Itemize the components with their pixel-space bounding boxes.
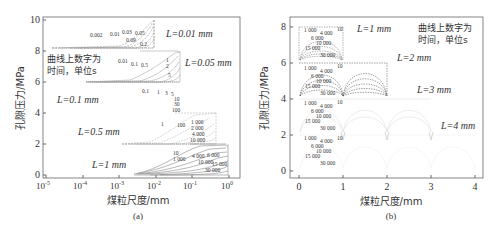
svg-text:0.03: 0.03 (122, 29, 132, 35)
cusps-b (341, 132, 433, 140)
labels-L01: 0.1 1 3 5 10 30 100 (142, 88, 181, 113)
label-L005: L=0.05 mm (184, 57, 232, 68)
labels-b-L3: 1 000 4 000 6 000 10 000 15 000 30 000 1… (304, 99, 343, 131)
xtick-b-1: 1 (341, 181, 346, 192)
figure: 0 2 4 6 8 10 10-5 10-4 10-3 10-2 10-1 10… (0, 0, 499, 237)
svg-text:100: 100 (177, 122, 186, 128)
svg-text:0.1: 0.1 (142, 88, 149, 94)
svg-text:0.002: 0.002 (90, 32, 103, 38)
ytick-b-2: 2 (281, 129, 286, 140)
label-L05: L=0.5 mm (77, 126, 120, 137)
caption-b: (b) (386, 211, 397, 221)
labels-L005: 0.01 0.1 0.5 1 2 5 (118, 57, 171, 78)
svg-text:1 000: 1 000 (304, 65, 317, 71)
caption-a: (a) (133, 211, 143, 221)
svg-text:15 000: 15 000 (305, 118, 320, 124)
note-line1-b: 曲线上数字为 (418, 22, 472, 33)
svg-text:2: 2 (166, 63, 169, 69)
x-axis-b: 0 1 2 3 4 (297, 175, 478, 192)
svg-text:5: 5 (168, 72, 171, 78)
svg-text:1: 1 (157, 89, 160, 95)
ytick-a-2: 2 (35, 138, 40, 149)
figure-canvas: 0 2 4 6 8 10 10-5 10-4 10-3 10-2 10-1 10… (0, 0, 499, 237)
y-axis-b: 0 2 4 6 8 (281, 21, 293, 176)
xtick-b-3: 3 (429, 181, 434, 192)
label-L1: L=1 mm (91, 159, 126, 170)
labels-b-L4: 1 000 4 000 6 000 10 000 15 000 30 000 1… (304, 135, 343, 166)
svg-text:30 000: 30 000 (320, 160, 335, 166)
labels-L1: 10 1 000 4 000 6 000 10 000 15 000 30 00… (173, 150, 227, 173)
svg-text:30 000: 30 000 (320, 52, 335, 58)
svg-text:30 000: 30 000 (320, 90, 335, 96)
ytick-b-8: 8 (281, 21, 286, 32)
svg-text:15 000: 15 000 (305, 153, 320, 159)
xtick-a-1e0: 100 (221, 180, 233, 191)
ylabel-a: 孔隙压力/MPa (14, 66, 26, 130)
ytick-a-8: 8 (35, 45, 40, 56)
svg-text:10 000: 10 000 (190, 137, 205, 143)
svg-text:0.09: 0.09 (126, 37, 136, 43)
ytick-a-0: 0 (35, 169, 40, 180)
svg-text:0.2: 0.2 (140, 41, 147, 47)
label-b-L4: L=4 mm (440, 120, 475, 131)
labels-b-L1: 1 000 4 000 6 000 10 000 15 000 30 000 1… (304, 26, 343, 58)
svg-text:6 000: 6 000 (207, 152, 220, 158)
svg-text:15 000: 15 000 (305, 45, 320, 51)
xtick-b-2: 2 (385, 181, 390, 192)
xtick-b-0: 0 (297, 181, 302, 192)
svg-text:30 000: 30 000 (205, 167, 220, 173)
ylabel-b: 孔隙压力/MPa (258, 66, 270, 130)
svg-text:1 000: 1 000 (304, 100, 317, 106)
ytick-a-6: 6 (35, 76, 40, 87)
svg-text:10: 10 (337, 63, 343, 69)
svg-text:0.01: 0.01 (110, 31, 120, 37)
xlabel-a: 煤粒尺度/mm (107, 194, 170, 206)
svg-text:15 000: 15 000 (305, 83, 320, 89)
ytick-b-0: 0 (281, 165, 286, 176)
note-line2-a: 时间，单位s (47, 65, 97, 76)
xtick-a-1e-2: 10-2 (147, 180, 161, 191)
note-line1-a: 曲线上数字为 (47, 53, 101, 64)
svg-text:1 000: 1 000 (173, 156, 186, 162)
xtick-a-1e-5: 10-5 (36, 180, 50, 191)
y-axis-a: 0 2 4 6 8 10 (30, 14, 46, 180)
svg-text:1 000: 1 000 (304, 135, 317, 141)
labels-L001: 0.002 0.01 0.03 0.05 0.09 0.2 (90, 29, 147, 47)
label-L01: L=0.1 mm (56, 94, 99, 105)
panel-a: 0 2 4 6 8 10 10-5 10-4 10-3 10-2 10-1 10… (14, 14, 240, 221)
svg-text:3: 3 (165, 90, 168, 96)
xlabel-b: 煤粒尺度/mm (360, 195, 423, 207)
label-b-L2: L=2 mm (396, 52, 431, 63)
x-axis-a: 10-5 10-4 10-3 10-2 10-1 100 (36, 175, 233, 191)
svg-text:1 000: 1 000 (304, 27, 317, 33)
svg-text:10: 10 (337, 99, 343, 105)
svg-text:10: 10 (337, 26, 343, 32)
svg-text:0.5: 0.5 (141, 62, 148, 68)
label-b-L1: L=1 mm (356, 23, 391, 34)
panel-b: 0 2 4 6 8 0 1 2 3 4 煤粒尺度/mm 孔隙压力/MPa (b) (258, 17, 483, 221)
label-L001: L=0.01 mm (165, 28, 213, 39)
note-line2-b: 时间，单位s (418, 34, 468, 45)
ytick-b-4: 4 (281, 93, 286, 104)
svg-text:30 000: 30 000 (320, 125, 335, 131)
ytick-a-10: 10 (30, 14, 40, 25)
svg-text:0.05: 0.05 (135, 30, 145, 36)
xtick-a-1e-1: 10-1 (183, 180, 197, 191)
label-b-L3: L=3 mm (416, 84, 451, 95)
svg-text:1: 1 (161, 121, 164, 127)
svg-text:100: 100 (172, 107, 181, 113)
labels-L05: 1 100 1 000 2 000 4 000 10 000 (161, 119, 205, 143)
svg-text:10: 10 (337, 135, 343, 141)
svg-text:0.1: 0.1 (131, 61, 138, 67)
xtick-a-1e-3: 10-3 (110, 180, 124, 191)
ytick-a-4: 4 (35, 107, 40, 118)
svg-text:0.01: 0.01 (118, 58, 128, 64)
xtick-a-1e-4: 10-4 (73, 180, 87, 191)
ytick-b-6: 6 (281, 57, 286, 68)
xtick-b-4: 4 (473, 181, 478, 192)
